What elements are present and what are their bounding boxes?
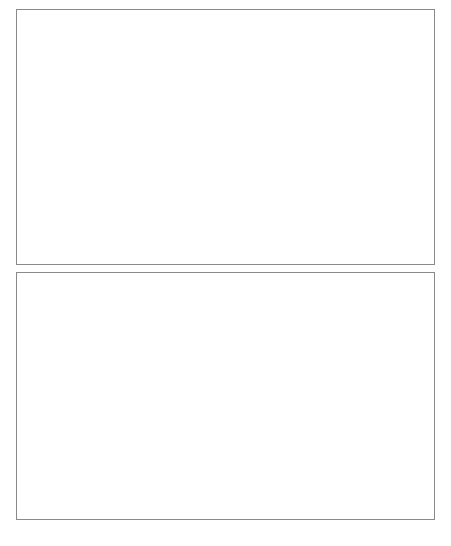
- top-chart-panel: [16, 9, 435, 265]
- figure-container: [0, 0, 451, 546]
- bottom-chart-svg: [17, 273, 433, 518]
- bottom-chart-panel: [16, 272, 435, 520]
- top-chart-plot: [17, 10, 434, 264]
- bottom-chart-plot: [17, 273, 434, 519]
- top-chart-svg: [17, 10, 433, 263]
